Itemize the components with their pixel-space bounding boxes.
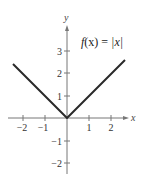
y-tick-label: −1: [51, 136, 62, 147]
y-axis-label: y: [63, 12, 69, 23]
x-axis-label: x: [130, 112, 136, 123]
x-tick-label: 1: [87, 122, 92, 133]
x-axis-arrow-icon: [123, 116, 129, 120]
function-annotation: f(x) = |x|: [81, 35, 123, 49]
x-tick-label: −2: [17, 122, 28, 133]
x-tick-label: −1: [38, 122, 49, 133]
absolute-value-plot: −2 −1 1 2 3 2 1 −1 −2 x y f(x) = |x|: [0, 0, 143, 182]
y-tick-label: 2: [57, 68, 62, 79]
y-tick-label: −2: [51, 158, 62, 169]
y-tick-label: 1: [57, 91, 62, 102]
y-tick-label: 3: [57, 46, 62, 57]
x-tick-label: 2: [109, 122, 114, 133]
abs-function-line: [13, 60, 125, 118]
y-axis-arrow-icon: [65, 25, 69, 31]
